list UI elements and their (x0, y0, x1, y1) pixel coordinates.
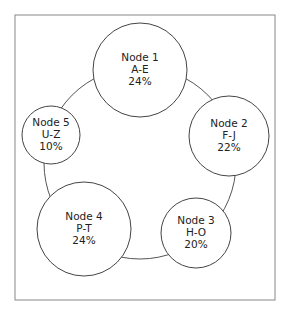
node-5: Node 5U-Z10% (22, 106, 80, 164)
node-2: Node 2F-J22% (189, 96, 269, 176)
node-range: A-E (131, 63, 148, 75)
node-3: Node 3H-O20% (161, 198, 231, 268)
node-label: Node 3 (177, 214, 214, 226)
node-range: U-Z (42, 128, 61, 140)
node-label: Node 2 (210, 117, 247, 129)
node-1: Node 1A-E24% (93, 23, 187, 117)
hash-ring-diagram: Node 1A-E24%Node 2F-J22%Node 3H-O20%Node… (0, 0, 291, 313)
node-range: F-J (222, 129, 236, 141)
node-share: 10% (39, 140, 62, 152)
node-share: 24% (128, 75, 151, 87)
node-label: Node 5 (32, 116, 69, 128)
node-4: Node 4P-T24% (37, 182, 131, 276)
node-share: 24% (72, 234, 95, 246)
node-share: 22% (217, 141, 240, 153)
node-range: P-T (76, 222, 92, 234)
node-share: 20% (184, 238, 207, 250)
node-label: Node 4 (65, 210, 103, 222)
node-range: H-O (186, 226, 206, 238)
node-label: Node 1 (121, 51, 158, 63)
